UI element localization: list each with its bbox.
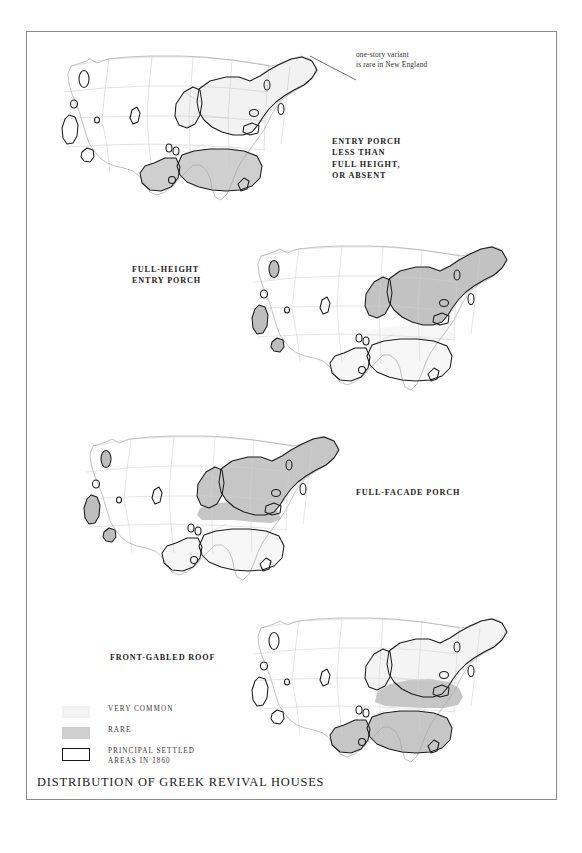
map-front-gabled-roof [224,606,544,776]
region-rare-2a [387,247,507,325]
region-rare-4a [367,711,452,753]
us-map-svg-4 [224,606,544,776]
map3-shading [162,529,284,571]
map-label-4: FRONT-GABLED ROOF [110,652,215,663]
plate-page: ENTRY PORCH LESS THAN FULL HEIGHT, OR AB… [0,0,582,853]
annotation-one-story-variant: one-story variant is rare in New England [356,50,427,70]
legend-swatch-rare [62,727,90,739]
map-label-1: ENTRY PORCH LESS THAN FULL HEIGHT, OR AB… [332,136,401,182]
annotation-leader-line-1 [296,52,358,92]
legend-label-principal-settled: PRINCIPAL SETTLED AREAS IN 1860 [108,746,195,766]
map-full-height-entry-porch [224,234,544,404]
legend: VERY COMMON RARE PRINCIPAL SETTLED AREAS… [62,704,262,767]
plate-title: DISTRIBUTION OF GREEK REVIVAL HOUSES [37,775,324,790]
legend-row-principal-settled: PRINCIPAL SETTLED AREAS IN 1860 [62,746,262,767]
legend-label-rare: RARE [108,725,131,735]
map2-shading [330,325,454,381]
map1-rare-shading [140,149,262,191]
legend-row-very-common: VERY COMMON [62,704,262,725]
legend-swatch-very-common [62,706,90,718]
us-map-svg-2 [224,234,544,404]
map-label-2: FULL-HEIGHT ENTRY PORCH [132,264,201,287]
legend-label-very-common: VERY COMMON [108,704,173,714]
legend-swatch-principal-settled [62,748,90,761]
map-full-facade-porch [56,424,376,594]
us-map-svg-3 [56,424,376,594]
region-very-common-3a [199,529,284,571]
legend-row-rare: RARE [62,725,262,746]
region-very-common-2a [367,339,452,381]
map-label-3: FULL-FACADE PORCH [356,487,460,498]
